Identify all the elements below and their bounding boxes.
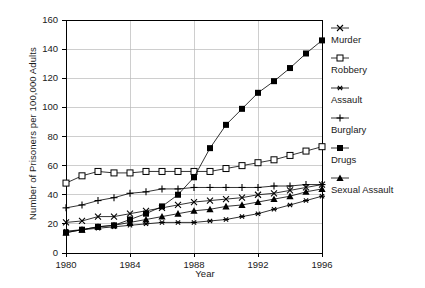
data-point — [95, 197, 102, 204]
data-point — [143, 188, 150, 195]
legend-marker-drugs — [331, 145, 349, 151]
data-point — [223, 122, 229, 128]
y-axis-tick-label: 120 — [18, 72, 58, 83]
x-axis-tick-label: 1980 — [46, 259, 86, 270]
data-point — [191, 174, 197, 180]
data-point — [63, 180, 69, 186]
y-axis-tick-label: 100 — [18, 101, 58, 112]
legend-marker-robbery — [331, 55, 349, 61]
y-axis-tick-label: 40 — [18, 189, 58, 200]
data-point — [79, 201, 86, 208]
data-point — [159, 203, 165, 209]
data-point — [239, 184, 246, 191]
data-point — [271, 157, 277, 163]
legend-marker-burglary — [331, 115, 349, 122]
data-point — [111, 194, 118, 201]
y-axis-tick-label: 0 — [18, 247, 58, 258]
legend-label-drugs: Drugs — [331, 154, 356, 165]
data-point — [207, 168, 213, 174]
data-point — [223, 184, 230, 191]
data-point — [143, 168, 149, 174]
y-axis-tick-label: 160 — [18, 14, 58, 25]
data-point — [175, 168, 181, 174]
data-point — [63, 204, 70, 211]
x-axis-tick-label: 1984 — [110, 259, 150, 270]
data-point — [223, 166, 229, 172]
data-point — [287, 65, 293, 71]
data-point — [239, 214, 245, 218]
data-point — [255, 90, 261, 96]
legend-label-murder: Murder — [331, 34, 361, 45]
data-point — [143, 211, 149, 217]
data-point — [319, 37, 325, 43]
data-point — [255, 160, 261, 166]
prisoners-by-offense-line-chart: Number of Prisoners per 100,000 Adults Y… — [0, 0, 425, 288]
data-point — [127, 170, 133, 176]
data-point — [303, 148, 309, 154]
data-point — [159, 185, 166, 192]
data-point — [207, 184, 214, 191]
data-point — [175, 185, 182, 192]
x-axis-tick-label: 1988 — [174, 259, 214, 270]
data-point — [79, 173, 85, 179]
data-point — [287, 203, 293, 207]
y-axis-tick-label: 140 — [18, 43, 58, 54]
y-axis-tick-label: 60 — [18, 160, 58, 171]
data-point — [191, 184, 198, 191]
data-point — [207, 145, 213, 151]
data-point — [255, 184, 262, 191]
legend-label-robbery: Robbery — [331, 64, 367, 75]
legend-label-burglary: Burglary — [331, 124, 366, 135]
data-point — [111, 170, 117, 176]
data-point — [175, 192, 181, 198]
data-point — [159, 168, 165, 174]
data-point — [303, 198, 309, 202]
legend-label-sexual-assault: Sexual Assault — [331, 184, 393, 195]
legend-label-assault: Assault — [331, 94, 362, 105]
legend-marker-assault — [331, 86, 349, 90]
data-point — [207, 219, 213, 223]
y-axis-tick-label: 80 — [18, 131, 58, 142]
data-point — [271, 207, 277, 211]
plot-area — [0, 0, 425, 288]
x-axis-tick-label: 1992 — [238, 259, 278, 270]
x-axis-tick-label: 1996 — [302, 259, 342, 270]
legend-marker-murder — [331, 25, 349, 31]
y-axis-tick-label: 20 — [18, 218, 58, 229]
legend-marker-sexual-assault — [331, 174, 349, 181]
data-point — [239, 106, 245, 112]
data-point — [271, 78, 277, 84]
data-point — [303, 50, 309, 56]
data-point — [239, 163, 245, 169]
data-point — [271, 183, 278, 190]
data-point — [223, 217, 229, 221]
data-point — [287, 152, 293, 158]
data-point — [95, 168, 101, 174]
data-point — [127, 190, 134, 197]
data-point — [319, 144, 325, 150]
